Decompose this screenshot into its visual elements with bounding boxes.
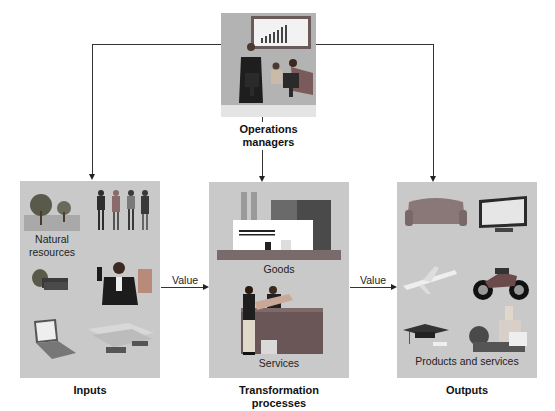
flat-tv-icon [477,196,529,236]
value-label-inputs-to-transformation: Value [172,274,198,286]
operations-managers-label: Operations managers [221,123,316,149]
goods-label: Goods [209,263,349,276]
inputs-box: Natural resources [20,181,160,378]
trees-icon [24,191,80,231]
resources-label: resources [24,246,80,259]
connector-top-right-vertical [433,44,434,176]
laptop-icon [28,319,78,361]
connector-top-right-horizontal [316,44,433,45]
transformation-caption: Transformation processes [209,384,349,410]
natural-resources-label: Natural resources [24,233,80,259]
arrow-to-inputs [89,174,95,180]
managers-illustration-icon [221,13,316,117]
presenter-man-icon [94,261,154,307]
connector-top-center-2 [262,150,263,176]
workers-group-icon [93,189,153,233]
connector-top-center-1 [262,117,263,122]
value-arrow-line-1 [161,287,204,288]
sofa-icon [405,196,467,230]
graduation-cap-icon [403,322,453,352]
outputs-caption: Outputs [397,384,537,397]
value-arrow-line-2 [350,287,392,288]
value-label-transformation-to-outputs: Value [360,274,386,286]
steel-beams-icon [88,321,154,361]
service-counter-icon [231,284,331,362]
services-label: Services [209,357,349,370]
airplane-icon [401,264,459,296]
factory-icon [217,190,341,260]
transformation-caption-line2: processes [209,397,349,410]
transformation-box: Goods Services [209,182,349,378]
cups-bottles-icon [465,304,531,356]
natural-label: Natural [24,233,80,246]
money-bags-icon [30,264,70,292]
motorcycle-icon [471,262,531,302]
products-and-services-label: Products and services [397,355,537,368]
connector-top-left-vertical [92,44,93,175]
operations-managers-label-line1: Operations [221,123,316,136]
operations-managers-box [221,13,316,117]
inputs-caption: Inputs [20,384,160,397]
outputs-box: Products and services [397,182,537,378]
transformation-caption-line1: Transformation [209,384,349,397]
operations-managers-label-line2: managers [221,136,316,149]
connector-top-left-horizontal [92,44,222,45]
